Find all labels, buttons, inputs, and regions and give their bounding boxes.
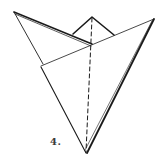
center-valley-fold	[86, 18, 92, 152]
cross-fold-line	[41, 19, 154, 66]
right-edge-inner	[85, 21, 152, 150]
step-number-label: 4.	[50, 136, 61, 147]
small-peak	[73, 17, 114, 35]
top-left-edge-inner	[15, 14, 91, 46]
left-lower-edge	[41, 67, 86, 153]
origami-diagram	[0, 0, 164, 166]
right-edge-outer	[87, 19, 154, 153]
